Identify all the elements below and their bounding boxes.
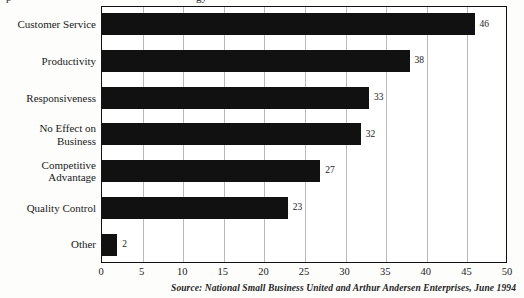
chart-page: p gy Customer ServiceProductivityRespons… [0, 0, 524, 298]
x-tick-label: 15 [218, 266, 229, 277]
bar [101, 13, 475, 35]
bar-row: 32 [101, 116, 507, 153]
clipped-title-fragment: p gy [0, 0, 524, 3]
category-label: Productivity [0, 55, 96, 68]
source-note: Source: National Small Business United a… [171, 283, 516, 293]
bar-row: 38 [101, 43, 507, 80]
bar-value-label: 46 [480, 20, 490, 30]
title-fragment-right: gy [196, 0, 207, 3]
bar-value-label: 27 [325, 166, 335, 176]
x-tick-label: 45 [461, 266, 472, 277]
x-tick-label: 25 [299, 266, 310, 277]
bars-layer: 4638333227232 [101, 6, 507, 263]
x-tick-label: 10 [177, 266, 188, 277]
bar [101, 160, 320, 182]
bar-value-label: 33 [374, 93, 384, 103]
category-label: Competitive Advantage [0, 159, 96, 184]
bar-value-label: 38 [415, 56, 425, 66]
bar-row: 2 [101, 226, 507, 263]
x-tick-label: 40 [421, 266, 432, 277]
title-fragment-left: p [6, 0, 12, 3]
bar-row: 23 [101, 190, 507, 227]
bar [101, 197, 288, 219]
category-label: Customer Service [0, 18, 96, 31]
bar [101, 87, 369, 109]
bar-row: 27 [101, 153, 507, 190]
bar-value-label: 32 [366, 130, 376, 140]
x-axis-tick-labels: 05101520253035404550 [101, 266, 507, 282]
category-label: Other [0, 238, 96, 251]
category-label: Quality Control [0, 202, 96, 215]
bar [101, 50, 410, 72]
category-axis-labels: Customer ServiceProductivityResponsivene… [0, 6, 96, 263]
x-tick-label: 50 [502, 266, 513, 277]
bar-row: 33 [101, 79, 507, 116]
bar [101, 234, 117, 256]
x-tick-label: 0 [98, 266, 103, 277]
x-tick-label: 30 [339, 266, 350, 277]
category-label: No Effect on Business [0, 122, 96, 147]
bar [101, 123, 361, 145]
bar-value-label: 23 [293, 203, 303, 213]
x-tick-label: 5 [139, 266, 144, 277]
x-tick-label: 35 [380, 266, 391, 277]
bar-row: 46 [101, 6, 507, 43]
x-tick-label: 20 [258, 266, 269, 277]
category-label: Responsiveness [0, 92, 96, 105]
bar-value-label: 2 [122, 240, 127, 250]
